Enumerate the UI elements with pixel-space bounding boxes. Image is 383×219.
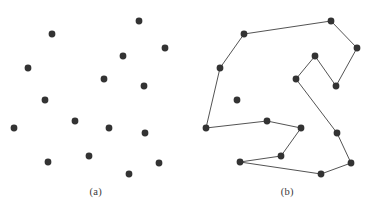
data-point [11,125,18,132]
tour-edges [206,21,357,174]
point-group [202,18,360,178]
data-point [347,160,354,167]
data-point [45,159,52,166]
point-group [11,18,169,178]
data-point [233,97,240,104]
data-point [236,159,243,166]
data-point [42,97,49,104]
tour-edge [267,121,301,128]
data-point [353,45,360,52]
data-point [311,53,318,60]
data-point [297,125,304,132]
tsp-figure: (a) (b) [0,0,383,219]
tour-edge [337,133,351,163]
data-point [156,160,163,167]
tour-edge [240,156,281,162]
data-point [72,118,79,125]
tour-edge [220,34,244,68]
data-point [49,31,56,38]
data-point [141,83,148,90]
data-point [86,153,93,160]
data-point [277,153,284,160]
data-point [332,83,339,90]
data-point [240,31,247,38]
data-point [136,18,143,25]
data-point [202,125,209,132]
tour-edge [244,21,331,34]
tour-edge [315,56,336,86]
tour-edge [240,162,321,174]
data-point [216,65,223,72]
data-point [327,18,334,25]
data-point [292,76,299,83]
panel-a: (a) [0,0,192,219]
tour-edge [206,121,267,128]
panel-b: (b) [192,0,383,219]
data-point [333,130,340,137]
data-point [162,45,169,52]
tour-edge [206,68,220,128]
data-point [126,171,133,178]
data-point [317,171,324,178]
caption-a: (a) [0,186,192,197]
data-point [101,76,108,83]
data-point [25,65,32,72]
tour-edge [321,163,351,174]
tour-edge [281,128,301,156]
caption-b: (b) [192,186,383,197]
data-point [120,53,127,60]
tour-edge [296,56,315,79]
data-point [263,118,270,125]
data-point [106,125,113,132]
data-point [142,130,149,137]
tour-edge [331,21,357,48]
tour-edge [336,48,357,86]
